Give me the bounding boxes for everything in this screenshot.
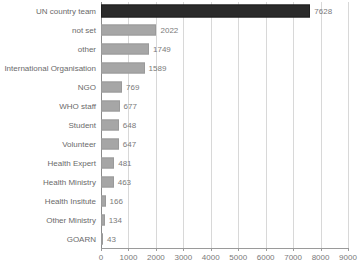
bar-row: not set2022 [101, 21, 348, 40]
x-tick-9000 [348, 248, 349, 251]
x-tick-6000 [266, 248, 267, 251]
value-label: 2022 [160, 26, 178, 35]
bar [101, 138, 119, 149]
category-label: Health Expert [48, 158, 96, 167]
bar-row: International Organisation1589 [101, 59, 348, 78]
bar [101, 25, 156, 36]
bar-wrapper: 7628 [101, 5, 332, 18]
bar-row: Health Insitute166 [101, 191, 348, 210]
value-label: 647 [123, 139, 136, 148]
value-label: 1589 [149, 64, 167, 73]
value-label: 166 [110, 196, 123, 205]
value-label: 463 [118, 177, 131, 186]
value-label: 769 [126, 83, 139, 92]
bar-wrapper: 481 [101, 157, 132, 168]
bar [101, 157, 114, 168]
bar-row: UN country team7628 [101, 2, 348, 21]
value-label: 481 [118, 158, 131, 167]
bar-chart: UN country team7628not set2022other1749I… [0, 0, 361, 269]
bar-wrapper: 647 [101, 138, 136, 149]
category-label: International Organisation [4, 64, 96, 73]
bar [101, 119, 119, 130]
x-tick-3000 [183, 248, 184, 251]
value-label: 1749 [153, 45, 171, 54]
bar [101, 176, 114, 187]
x-tick-label: 8000 [312, 253, 330, 262]
category-label: Student [68, 120, 96, 129]
bar-wrapper: 463 [101, 176, 131, 187]
bar-wrapper: 677 [101, 101, 137, 112]
bar-row: other1749 [101, 40, 348, 59]
x-tick-0 [101, 248, 102, 251]
bar [101, 63, 145, 74]
x-tick-8000 [321, 248, 322, 251]
bar-wrapper: 43 [101, 233, 116, 244]
bar-wrapper: 1749 [101, 44, 171, 55]
category-label: not set [72, 26, 96, 35]
category-label: Volunteer [62, 139, 96, 148]
x-axis: 0100020003000400050006000700080009000 [101, 248, 348, 268]
category-label: GOARN [67, 234, 96, 243]
bar-wrapper: 1589 [101, 63, 166, 74]
bar-row: Health Ministry463 [101, 172, 348, 191]
x-tick-label: 2000 [147, 253, 165, 262]
category-label: Health Insitute [45, 196, 96, 205]
x-tick-label: 0 [99, 253, 103, 262]
bar [101, 101, 120, 112]
bar-wrapper: 134 [101, 214, 122, 225]
x-tick-label: 5000 [229, 253, 247, 262]
bar-row: NGO769 [101, 78, 348, 97]
bar-wrapper: 648 [101, 119, 136, 130]
x-tick-label: 6000 [257, 253, 275, 262]
x-tick-2000 [156, 248, 157, 251]
category-label: NGO [78, 83, 96, 92]
x-tick-1000 [128, 248, 129, 251]
plot-area: UN country team7628not set2022other1749I… [101, 2, 348, 248]
category-label: WHO staff [59, 102, 96, 111]
x-tick-4000 [211, 248, 212, 251]
bar-row: Student648 [101, 116, 348, 135]
bar [101, 195, 106, 206]
x-tick-label: 7000 [284, 253, 302, 262]
x-axis-line [101, 248, 348, 249]
x-tick-7000 [293, 248, 294, 251]
x-tick-label: 4000 [202, 253, 220, 262]
value-label: 43 [107, 234, 116, 243]
bar-wrapper: 166 [101, 195, 123, 206]
value-label: 648 [123, 120, 136, 129]
gridline-9000 [348, 2, 349, 248]
value-label: 677 [124, 102, 137, 111]
category-label: other [78, 45, 96, 54]
value-label: 134 [109, 215, 122, 224]
bar [101, 5, 310, 18]
bar [101, 214, 105, 225]
value-label: 7628 [314, 7, 332, 16]
x-tick-5000 [238, 248, 239, 251]
bar-row: Volunteer647 [101, 134, 348, 153]
bar-rows: UN country team7628not set2022other1749I… [101, 2, 348, 248]
bar-wrapper: 769 [101, 82, 139, 93]
bar-row: Other Ministry134 [101, 210, 348, 229]
x-tick-label: 9000 [339, 253, 357, 262]
bar-row: Health Expert481 [101, 153, 348, 172]
x-tick-label: 1000 [120, 253, 138, 262]
bar [101, 82, 122, 93]
category-label: UN country team [36, 7, 96, 16]
bar-wrapper: 2022 [101, 25, 178, 36]
category-label: Health Ministry [43, 177, 96, 186]
category-label: Other Ministry [46, 215, 96, 224]
bar-row: WHO staff677 [101, 97, 348, 116]
bar [101, 44, 149, 55]
x-tick-label: 3000 [174, 253, 192, 262]
bar-row: GOARN43 [101, 229, 348, 248]
bar [101, 233, 103, 244]
